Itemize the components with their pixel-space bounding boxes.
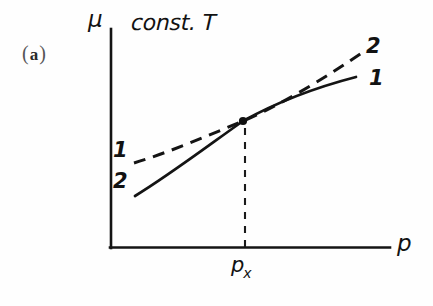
crossing-point-marker (239, 117, 247, 125)
curve-label-left-solid: 2 (113, 171, 128, 192)
panel-label-paren-close: ) (39, 42, 47, 64)
panel-label-letter: a (30, 45, 40, 64)
curve-label-right-solid: 1 (369, 68, 384, 89)
curve-solid-phase1 (135, 77, 356, 196)
panel-label-paren-open: ( (22, 42, 30, 64)
const-temperature-label: const. T (131, 12, 216, 34)
x-axis-label: p (397, 232, 412, 255)
panel-label: (a) (22, 43, 47, 63)
curve-label-left-dashed: 1 (113, 140, 128, 161)
px-tick-label: px (231, 255, 252, 280)
curve-label-right-dashed: 2 (366, 36, 381, 57)
px-tick-subscript: x (243, 265, 251, 281)
figure-panel: (a) μ const. T p px 1 2 2 1 (0, 0, 433, 306)
curve-dashed-phase2 (134, 52, 363, 163)
y-axis-label: μ (88, 8, 103, 31)
